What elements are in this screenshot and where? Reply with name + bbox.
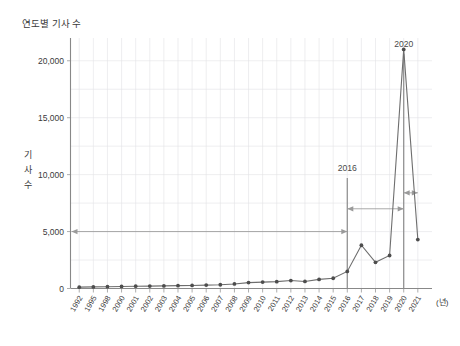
x-tick-label: 2017	[350, 294, 366, 313]
series-point	[218, 283, 222, 287]
x-tick-label: 1995	[82, 294, 98, 313]
series-point	[190, 284, 194, 288]
x-tick-label: 2016	[336, 294, 352, 313]
y-axis-ticks: 05,00010,00015,00020,000	[38, 56, 71, 294]
x-tick-label: 2020	[393, 294, 409, 313]
x-tick-label: 2005	[181, 294, 197, 313]
x-tick-label: 2010	[252, 294, 268, 313]
x-tick-label: 2004	[167, 294, 183, 313]
arrow-head-right	[341, 229, 347, 234]
series-point	[402, 47, 406, 51]
series-point	[176, 284, 180, 288]
x-axis-unit-label: (년)	[436, 297, 449, 307]
y-tick-label: 10,000	[38, 170, 64, 180]
series-point	[120, 285, 124, 289]
arrow-head-right	[398, 206, 404, 211]
marker-2016-label: 2016	[338, 163, 357, 173]
series-point	[204, 283, 208, 287]
span-arrow-long	[72, 229, 348, 234]
series-point	[91, 285, 95, 289]
y-axis-label-char: 기	[24, 150, 32, 160]
series-point	[317, 277, 321, 281]
x-tick-label: 2018	[364, 294, 380, 313]
series-point	[275, 280, 279, 284]
series-point	[162, 284, 166, 288]
gridlines	[71, 38, 433, 289]
x-tick-label: 1992	[68, 294, 84, 313]
series-point	[416, 238, 420, 242]
x-tick-label: 2002	[139, 294, 155, 313]
x-tick-label: 2021	[407, 294, 423, 313]
series-point	[106, 285, 110, 289]
x-tick-label: 2006	[195, 294, 211, 313]
series-point	[148, 284, 152, 288]
series-point	[345, 270, 349, 274]
series-point	[247, 281, 251, 285]
y-axis-label-char: 사	[24, 165, 33, 175]
x-tick-label: 2015	[322, 294, 338, 313]
x-tick-label: 2019	[379, 294, 395, 313]
series-point	[331, 276, 335, 280]
series-point	[374, 260, 378, 264]
y-tick-label: 20,000	[38, 56, 64, 66]
y-axis-label-char: 수	[24, 180, 32, 190]
articles-per-year-line-chart: 연도별 기사 수 기사수 05,00010,00015,00020,000 19…	[0, 0, 460, 346]
series-point	[77, 285, 81, 289]
x-tick-label: 2007	[209, 294, 225, 313]
x-tick-label: 2009	[238, 294, 254, 313]
y-tick-label: 15,000	[38, 113, 64, 123]
x-tick-label: 2003	[153, 294, 169, 313]
y-axis-label: 기사수	[24, 150, 33, 190]
x-tick-label: 2013	[294, 294, 310, 313]
arrow-head-left	[72, 229, 78, 234]
series-point	[388, 254, 392, 258]
series-point	[303, 280, 307, 284]
span-arrows	[72, 190, 418, 234]
series-point	[261, 280, 265, 284]
x-tick-label: 1998	[96, 294, 112, 313]
x-tick-label: 2012	[280, 294, 296, 313]
span-arrow-short	[404, 190, 418, 195]
x-tick-label: 2000	[111, 294, 127, 313]
y-tick-label: 5,000	[43, 227, 65, 237]
y-tick-label: 0	[59, 284, 64, 294]
x-axis-ticks: 1992199519982000200120022003200420052006…	[68, 289, 423, 314]
chart-title: 연도별 기사 수	[22, 18, 81, 29]
arrow-head-left	[404, 190, 410, 195]
x-tick-label: 2014	[308, 294, 324, 313]
series-point	[289, 279, 293, 283]
x-tick-label: 2001	[125, 294, 141, 313]
chart-container: 연도별 기사 수 기사수 05,00010,00015,00020,000 19…	[0, 0, 460, 346]
series-point	[134, 284, 138, 288]
series-point	[359, 243, 363, 247]
x-tick-label: 2008	[223, 294, 239, 313]
x-tick-label: 2011	[266, 294, 282, 313]
series-point	[233, 282, 237, 286]
arrow-head-left	[347, 206, 353, 211]
